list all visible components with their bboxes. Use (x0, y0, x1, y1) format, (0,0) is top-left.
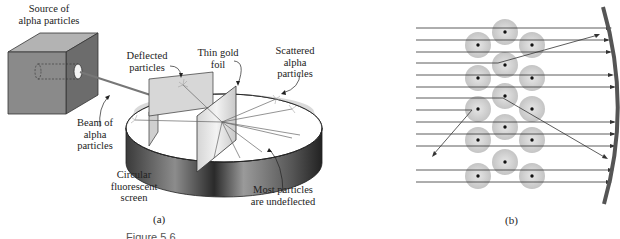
label-line: are undeflected (248, 196, 318, 208)
caption-b: (b) (505, 214, 518, 226)
label-source: Source of alpha particles (14, 3, 84, 26)
label-line: particles (122, 62, 172, 74)
label-line: Scattered (270, 45, 320, 57)
label-deflected: Deflected particles (122, 50, 172, 73)
label-line: Most particles (248, 184, 318, 196)
label-line: foil (196, 59, 240, 71)
label-scattered: Scattered alpha particles (270, 45, 320, 80)
figure-label: Figure 5.6 (126, 231, 176, 239)
label-screen: Circular fluorescent screen (104, 169, 164, 204)
label-line: Deflected (122, 50, 172, 62)
caption-a: (a) (153, 213, 165, 225)
label-foil: Thin gold foil (196, 47, 240, 70)
label-line: Circular (104, 169, 164, 181)
label-line: Beam of (72, 117, 118, 129)
label-line: alpha particles (14, 15, 84, 27)
label-line: Thin gold (196, 47, 240, 59)
label-undeflected: Most particles are undeflected (248, 184, 318, 207)
label-beam: Beam of alpha particles (72, 117, 118, 152)
label-line: Source of (14, 3, 84, 15)
label-line: screen (104, 192, 164, 204)
label-line: alpha (270, 57, 320, 69)
label-line: fluorescent (104, 181, 164, 193)
detector-screen-arc (603, 7, 618, 204)
label-line: particles (72, 140, 118, 152)
gold-atoms (465, 19, 545, 189)
label-line: alpha (72, 129, 118, 141)
label-line: particles (270, 68, 320, 80)
